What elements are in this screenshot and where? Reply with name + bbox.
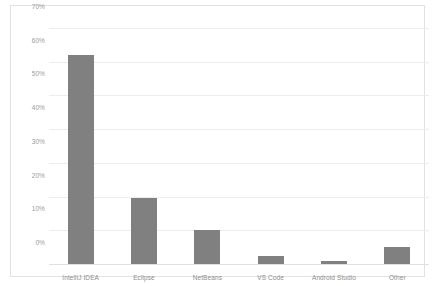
x-label-slot-android-studio: Android Studio <box>302 266 365 284</box>
x-label-slot-intellij-idea: IntelliJ IDEA <box>49 266 112 284</box>
y-tick-label-70: 70% <box>32 3 45 10</box>
bar-other[interactable] <box>384 247 410 264</box>
y-tick-label-50: 50% <box>32 70 45 77</box>
x-label-slot-eclipse: Eclipse <box>112 266 175 284</box>
y-tick-label-40: 40% <box>32 104 45 111</box>
x-tick-label-android-studio: Android Studio <box>312 274 356 281</box>
bar-vs-code[interactable] <box>258 256 284 264</box>
bar-slot-eclipse <box>112 28 175 264</box>
y-tick-label-20: 20% <box>32 171 45 178</box>
y-tick-label-30: 30% <box>32 137 45 144</box>
y-tick-label-0: 0% <box>35 239 45 246</box>
gridline-baseline-0 <box>49 264 429 265</box>
x-label-slot-vs-code: VS Code <box>239 266 302 284</box>
x-label-slot-netbeans: NetBeans <box>176 266 239 284</box>
chart-frame: 0% 10% 20% 30% 40% 50% 60% 70% <box>10 5 425 277</box>
bar-slot-android-studio <box>302 28 365 264</box>
plot-area <box>49 28 429 264</box>
y-tick-label-60: 60% <box>32 36 45 43</box>
x-tick-label-intellij-idea: IntelliJ IDEA <box>62 274 99 281</box>
bars-container <box>49 28 429 264</box>
bar-android-studio[interactable] <box>321 261 347 264</box>
x-axis-labels: IntelliJ IDEA Eclipse NetBeans VS Code A… <box>49 266 429 284</box>
bar-slot-netbeans <box>176 28 239 264</box>
bar-slot-other <box>366 28 429 264</box>
bar-intellij-idea[interactable] <box>68 55 94 264</box>
x-tick-label-vs-code: VS Code <box>257 274 284 281</box>
bar-chart: 0% 10% 20% 30% 40% 50% 60% 70% <box>0 0 437 286</box>
x-label-slot-other: Other <box>366 266 429 284</box>
bar-netbeans[interactable] <box>194 230 220 264</box>
bar-slot-intellij-idea <box>49 28 112 264</box>
y-tick-label-10: 10% <box>32 205 45 212</box>
y-axis-labels: 0% 10% 20% 30% 40% 50% 60% 70% <box>11 6 49 276</box>
x-tick-label-other: Other <box>389 274 406 281</box>
bar-eclipse[interactable] <box>131 198 157 264</box>
x-tick-label-netbeans: NetBeans <box>193 274 222 281</box>
x-tick-label-eclipse: Eclipse <box>133 274 155 281</box>
bar-slot-vs-code <box>239 28 302 264</box>
